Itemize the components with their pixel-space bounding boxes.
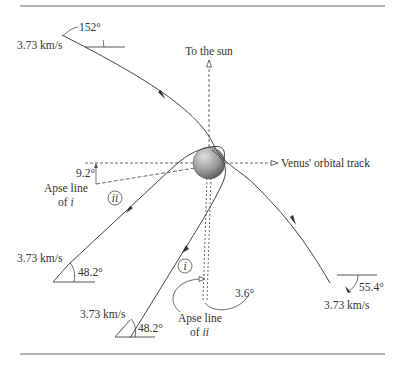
bottom-left-leg: [115, 320, 130, 337]
mid-left-leg: [53, 265, 68, 282]
top-angle: 152°: [79, 21, 101, 33]
apse-ii-arrow-icon: [199, 277, 205, 282]
arrow-i-icon: [182, 245, 189, 253]
mid-left-angle: 48.2°: [78, 266, 103, 278]
apse-i-label-1: Apse line: [44, 182, 88, 195]
bottom-left-speed: 3.73 km/s: [80, 308, 126, 320]
apse-i-angle: 9.2°: [76, 167, 95, 179]
traj-i-label: i: [183, 260, 186, 272]
top-angle-arrow: [63, 27, 78, 36]
sun-label: To the sun: [185, 45, 233, 57]
apse-ii-angle: 3.6°: [235, 287, 254, 299]
top-speed: 3.73 km/s: [17, 39, 63, 51]
apse-line-ii-a: [203, 178, 207, 300]
arrow-main-bottom-icon: [290, 215, 296, 225]
bottom-right-angle-arc: [350, 275, 358, 290]
apse-line-ii-b: [207, 178, 211, 300]
sun-arrow-icon: [207, 60, 212, 67]
traj-ii-label: ii: [112, 192, 118, 204]
apse-ii-label-2: of ii: [190, 326, 209, 338]
venus-planet: [193, 147, 225, 179]
arrow-main-top-icon: [158, 90, 165, 99]
venus-track-arrow-icon: [271, 161, 278, 166]
venus-flyby-diagram: To the sun Venus' orbital track 9.2° Aps…: [0, 0, 403, 365]
bottom-right-speed: 3.73 km/s: [324, 299, 370, 311]
apse-ii-leader: [173, 279, 200, 312]
bottom-right-angle: 55.4°: [359, 281, 384, 293]
mid-left-angle-arc: [70, 263, 75, 282]
bottom-left-angle-arc: [131, 319, 136, 337]
mid-left-speed: 3.73 km/s: [17, 252, 63, 264]
venus-track-label: Venus' orbital track: [281, 157, 370, 169]
bottom-left-angle: 48.2°: [138, 322, 163, 334]
apse-i-label-2: of i: [58, 196, 74, 208]
top-angle-arc: [103, 40, 104, 47]
apse-ii-label-1: Apse line: [178, 312, 222, 325]
